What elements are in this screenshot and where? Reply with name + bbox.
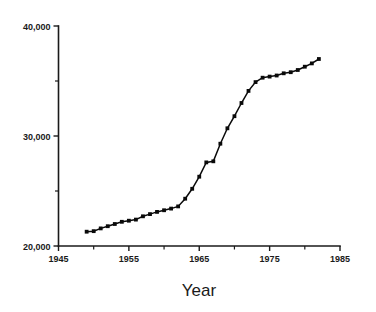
data-point-marker	[254, 80, 258, 84]
data-point-marker	[240, 101, 244, 105]
data-point-marker	[218, 142, 222, 146]
data-point-marker	[169, 207, 173, 211]
data-point-marker	[268, 75, 272, 79]
data-point-marker	[176, 205, 180, 209]
y-tick-label: 30,000	[23, 132, 51, 142]
y-tick-label: 20,000	[23, 242, 51, 252]
data-point-marker	[113, 222, 117, 226]
data-point-marker	[134, 218, 138, 222]
data-point-marker	[310, 62, 314, 66]
data-point-marker	[197, 175, 201, 179]
data-point-marker	[106, 224, 110, 228]
data-point-marker	[92, 229, 96, 233]
x-tick-label: 1965	[189, 254, 209, 264]
data-point-marker	[303, 65, 307, 69]
data-point-marker	[317, 57, 321, 61]
data-point-marker	[204, 161, 208, 165]
x-tick-label: 1975	[260, 254, 280, 264]
data-point-marker	[289, 70, 293, 74]
data-point-marker	[99, 227, 103, 231]
data-point-marker	[282, 71, 286, 75]
data-point-marker	[141, 214, 145, 218]
data-point-marker	[183, 197, 187, 201]
data-point-marker	[120, 220, 124, 224]
x-tick-label: 1955	[119, 254, 139, 264]
x-tick-label: 1985	[330, 254, 350, 264]
data-point-marker	[162, 208, 166, 212]
chart-background	[0, 0, 376, 312]
data-point-marker	[226, 126, 230, 130]
data-point-marker	[261, 76, 265, 80]
data-point-marker	[296, 68, 300, 72]
data-point-marker	[148, 212, 152, 216]
x-axis-title: Year	[182, 281, 217, 300]
line-chart-figure: 20,00030,00040,000 19451955196519751985 …	[0, 0, 376, 312]
data-point-marker	[211, 159, 215, 163]
x-tick-label: 1945	[48, 254, 68, 264]
data-point-marker	[275, 74, 279, 78]
data-point-marker	[127, 219, 131, 223]
data-point-marker	[247, 89, 251, 93]
data-point-marker	[85, 230, 89, 234]
data-point-marker	[155, 210, 159, 214]
y-tick-label: 40,000	[23, 22, 51, 32]
data-point-marker	[190, 187, 194, 191]
data-point-marker	[233, 114, 237, 118]
